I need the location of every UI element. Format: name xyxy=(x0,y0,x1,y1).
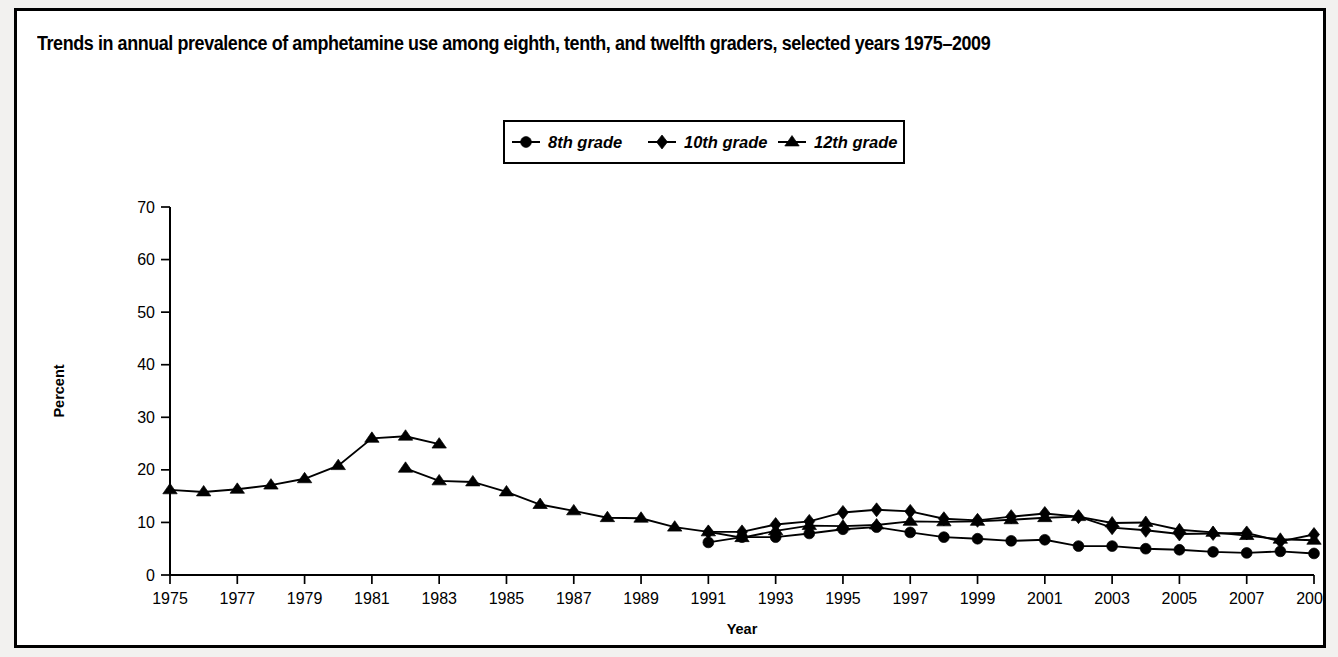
data-point-circle xyxy=(1140,543,1151,554)
data-point-circle xyxy=(1039,534,1050,545)
data-point-circle xyxy=(905,527,916,538)
y-axis-title: Percent xyxy=(51,364,67,417)
data-point-triangle xyxy=(836,520,850,530)
chart-plot-area: 8th grade10th grade12th grade 0102030405… xyxy=(17,11,1323,645)
data-point-circle xyxy=(1174,544,1185,555)
x-tick-label: 2007 xyxy=(1229,590,1265,607)
y-tick-label: 40 xyxy=(137,356,155,373)
x-tick-label: 1979 xyxy=(287,590,323,607)
data-point-circle xyxy=(1241,548,1252,559)
x-tick-label: 2005 xyxy=(1162,590,1198,607)
x-tick-label: 1995 xyxy=(825,590,861,607)
line-chart: 8th grade10th grade12th grade 0102030405… xyxy=(17,11,1323,645)
series-12th-grade xyxy=(398,462,1321,544)
legend-label: 12th grade xyxy=(814,133,897,151)
y-tick-label: 70 xyxy=(137,199,155,216)
series-12th-grade xyxy=(163,430,447,496)
x-tick-label: 1977 xyxy=(219,590,255,607)
legend-label: 10th grade xyxy=(684,133,767,151)
chart-series xyxy=(163,430,1321,559)
x-tick-label: 1983 xyxy=(421,590,457,607)
y-tick-label: 30 xyxy=(137,409,155,426)
x-tick-label: 1999 xyxy=(960,590,996,607)
legend-label: 8th grade xyxy=(548,133,622,151)
x-tick-label: 2001 xyxy=(1027,590,1063,607)
data-point-circle xyxy=(521,137,532,148)
x-tick-label: 1975 xyxy=(152,590,188,607)
y-tick-label: 0 xyxy=(146,567,155,584)
data-point-circle xyxy=(1006,535,1017,546)
y-tick-label: 10 xyxy=(137,514,155,531)
data-point-diamond xyxy=(837,505,848,519)
x-axis-title: Year xyxy=(727,621,758,637)
data-point-triangle xyxy=(398,430,412,440)
data-point-triangle xyxy=(634,512,648,522)
x-tick-label: 1981 xyxy=(354,590,390,607)
figure-container: Trends in annual prevalence of amphetami… xyxy=(0,0,1338,657)
x-tick-label: 1985 xyxy=(489,590,525,607)
y-tick-label: 20 xyxy=(137,461,155,478)
data-point-circle xyxy=(938,532,949,543)
figure-frame: Trends in annual prevalence of amphetami… xyxy=(14,8,1326,648)
x-tick-label: 1993 xyxy=(758,590,794,607)
data-point-triangle xyxy=(398,462,412,472)
x-tick-label: 2009 xyxy=(1296,590,1323,607)
data-point-triangle xyxy=(903,515,917,525)
x-tick-label: 1991 xyxy=(691,590,727,607)
data-point-circle xyxy=(1073,541,1084,552)
data-point-triangle xyxy=(163,483,177,493)
data-point-circle xyxy=(1309,548,1320,559)
data-point-circle xyxy=(1208,546,1219,557)
data-point-circle xyxy=(972,533,983,544)
y-tick-label: 60 xyxy=(137,251,155,268)
x-tick-label: 2003 xyxy=(1094,590,1130,607)
x-tick-label: 1987 xyxy=(556,590,592,607)
data-point-diamond xyxy=(871,503,882,517)
data-point-circle xyxy=(1107,541,1118,552)
chart-legend: 8th grade10th grade12th grade xyxy=(504,121,904,163)
x-tick-label: 1989 xyxy=(623,590,659,607)
y-tick-label: 50 xyxy=(137,304,155,321)
x-tick-label: 1997 xyxy=(892,590,928,607)
data-point-triangle xyxy=(1139,516,1153,526)
data-point-triangle xyxy=(466,476,480,486)
